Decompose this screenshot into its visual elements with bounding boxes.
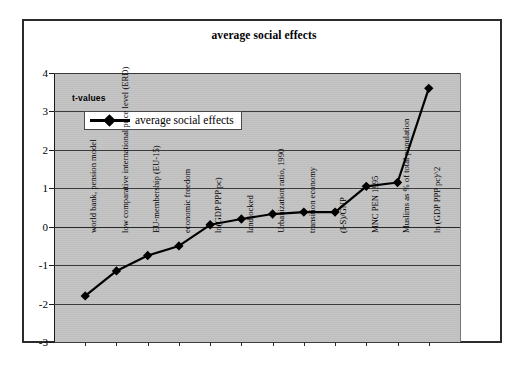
x-tick-mark [179,342,180,346]
x-category-label: ln(GDP PPP pc) [213,177,223,233]
x-category-label: low comparative international price leve… [120,66,130,232]
x-category-label: world bank, pension model [88,139,98,233]
x-category-label: Muslims as % of total population [401,118,411,232]
chart-page: average social effects 43210-1-2-3 t-val… [0,0,523,379]
y-tick-label: 2 [26,145,48,155]
x-tick-mark [335,342,336,346]
x-category-label: Urbanization ratio, 1990 [276,148,286,232]
y-tick-label: 3 [26,106,48,116]
x-category-label: MNC PEN 1995 [370,175,380,232]
x-tick-mark [85,342,86,346]
x-category-label: economic freedom [182,169,192,233]
x-tick-mark [304,342,305,346]
x-category-label: EU-membership (EU-15) [151,145,161,233]
x-tick-mark [241,342,242,346]
y-tick-label: 0 [26,222,48,232]
y-tick-mark [49,342,54,343]
y-tick-label: -3 [26,337,48,347]
x-category-label: transition economy [307,167,317,233]
x-tick-mark [366,342,367,346]
x-category-label: landlocked [245,195,255,233]
x-tick-mark [429,342,430,346]
x-category-label: ln (GDP PPP pc)^2 [432,167,442,233]
x-tick-mark [148,342,149,346]
y-tick-label: -2 [26,299,48,309]
y-tick-label: 1 [26,183,48,193]
y-tick-label: -1 [26,260,48,270]
x-category-label: (I-S)/GNP [338,197,348,233]
data-point-marker [143,251,152,260]
x-tick-mark [210,342,211,346]
gridline--3 [54,342,460,343]
data-point-marker [424,84,433,93]
plot-right-border [460,73,461,342]
chart-frame: average social effects 43210-1-2-3 t-val… [22,19,502,343]
series-average-social-effects [54,73,460,342]
page-title: average social effects [24,29,504,41]
x-tick-mark [116,342,117,346]
x-tick-mark [273,342,274,346]
y-tick-label: 4 [26,68,48,78]
x-tick-mark [398,342,399,346]
